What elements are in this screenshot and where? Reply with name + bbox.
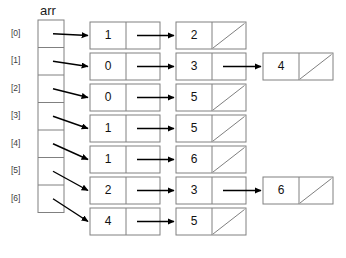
hash-table-diagram: arr [0][1][2][3][4][5][6] 12034051516236… bbox=[0, 0, 346, 258]
array-title: arr bbox=[40, 3, 56, 18]
node-value: 2 bbox=[90, 183, 126, 197]
array-index-label-0: [0] bbox=[11, 28, 20, 38]
array-index-label-3: [3] bbox=[11, 110, 20, 120]
node-value: 6 bbox=[263, 183, 299, 197]
node-value: 1 bbox=[90, 28, 126, 42]
node-value: 5 bbox=[176, 90, 212, 104]
node-value: 3 bbox=[176, 183, 212, 197]
node-value: 6 bbox=[176, 152, 212, 166]
node-value: 4 bbox=[263, 59, 299, 73]
node-value: 5 bbox=[176, 121, 212, 135]
node-value: 4 bbox=[90, 214, 126, 228]
diagram-canvas bbox=[0, 0, 346, 258]
node-value: 1 bbox=[90, 152, 126, 166]
array-index-label-5: [5] bbox=[11, 165, 20, 175]
node-value: 1 bbox=[90, 121, 126, 135]
array-box bbox=[38, 20, 64, 213]
array-index-label-6: [6] bbox=[11, 193, 20, 203]
node-value: 2 bbox=[176, 28, 212, 42]
array-index-label-2: [2] bbox=[11, 83, 20, 93]
node-value: 5 bbox=[176, 214, 212, 228]
node-value: 0 bbox=[90, 90, 126, 104]
array-index-label-4: [4] bbox=[11, 138, 20, 148]
array-outline bbox=[38, 20, 64, 213]
node-value: 0 bbox=[90, 59, 126, 73]
array-index-label-1: [1] bbox=[11, 55, 20, 65]
node-value: 3 bbox=[176, 59, 212, 73]
